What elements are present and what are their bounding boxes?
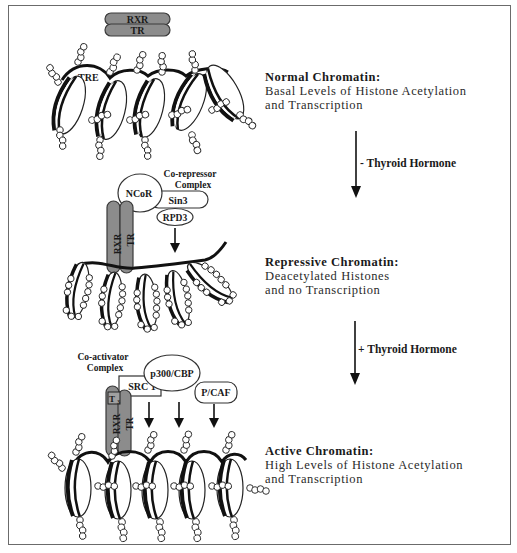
rxr-label-2: RXR bbox=[113, 234, 123, 255]
rxr-tr-dimer-bound: RXR TR bbox=[107, 201, 136, 273]
repressive-chromatin-title: Repressive Chromatin: bbox=[265, 255, 399, 269]
repressive-chromatin-description: Repressive Chromatin: Deacetylated Histo… bbox=[265, 255, 399, 297]
active-chromatin-line-1: High Levels of Histone Acetylation bbox=[265, 458, 463, 472]
t3-label: T bbox=[109, 394, 115, 404]
t3-subscript: 3 bbox=[117, 399, 120, 405]
tr-label-2: TR bbox=[126, 233, 136, 246]
normal-chromatin-illustration: RXR TR TRE bbox=[43, 13, 258, 160]
active-chromatin-description: Active Chromatin: High Levels of Histone… bbox=[265, 444, 463, 486]
corepressor-label-2: Complex bbox=[175, 180, 212, 190]
normal-chromatin-line-1: Basal Levels of Histone Acetylation bbox=[265, 84, 467, 98]
normal-chromatin-description: Normal Chromatin: Basal Levels of Histon… bbox=[265, 70, 467, 112]
corepressor-label-1: Co-repressor bbox=[164, 169, 218, 179]
arrow-down-icon bbox=[350, 373, 360, 385]
tr-label-3: TR bbox=[125, 417, 135, 430]
rxr-label-1: RXR bbox=[127, 14, 149, 25]
coactivator-label-2: Complex bbox=[87, 363, 124, 373]
repressive-chromatin-line-1: Deacetylated Histones bbox=[265, 269, 399, 283]
sin3-label: Sin3 bbox=[169, 195, 188, 206]
plus-thyroid-hormone-label: + Thyroid Hormone bbox=[358, 343, 457, 355]
normal-chromatin-line-2: and Transcription bbox=[265, 98, 467, 112]
repressive-chromatin-illustration: Co-repressor Complex NCoR Sin3 RPD3 RXR … bbox=[60, 169, 242, 333]
active-chromatin-illustration: Co-activator Complex SRC 1 p300/CBP P/CA… bbox=[45, 352, 269, 542]
coactivator-label-1: Co-activator bbox=[77, 352, 129, 362]
arrow-down-icon bbox=[144, 418, 154, 428]
p300-cbp-label: p300/CBP bbox=[150, 368, 193, 379]
arrow-down-icon bbox=[351, 186, 361, 198]
tr-label-1: TR bbox=[131, 25, 146, 36]
deacetylation-arrow-icon bbox=[170, 243, 180, 253]
rxr-label-3: RXR bbox=[112, 414, 122, 435]
active-chromatin-title: Active Chromatin: bbox=[265, 444, 463, 458]
repressive-chromatin-line-2: and no Transcription bbox=[265, 283, 399, 297]
minus-thyroid-hormone-label: - Thyroid Hormone bbox=[360, 157, 456, 169]
acetylation-arrows bbox=[144, 402, 219, 428]
pcaf-label: P/CAF bbox=[201, 387, 230, 398]
ncor-label: NCoR bbox=[126, 188, 153, 199]
arrow-down-icon bbox=[174, 418, 184, 428]
rpd3-label: RPD3 bbox=[163, 213, 188, 223]
arrow-down-icon bbox=[209, 418, 219, 428]
active-chromatin-line-2: and Transcription bbox=[265, 472, 463, 486]
normal-chromatin-title: Normal Chromatin: bbox=[265, 70, 467, 84]
rxr-tr-dimer: RXR TR bbox=[105, 13, 170, 36]
